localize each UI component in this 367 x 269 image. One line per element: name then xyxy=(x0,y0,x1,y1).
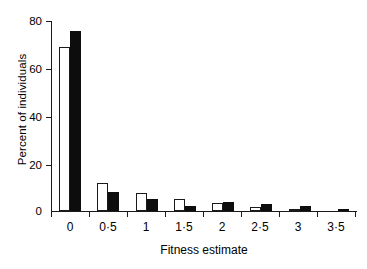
x-tick-label-0-5: 0·5 xyxy=(88,220,128,234)
bar-open-0·5 xyxy=(97,183,108,212)
x-tick-label-3: 3 xyxy=(278,220,318,234)
x-tick-boundary-6 xyxy=(279,212,280,217)
bar-open-1·5 xyxy=(174,199,185,211)
bar-chart-figure: Percent of individuals 80 60 40 20 0 0 0… xyxy=(0,0,367,269)
x-tick-boundary-1 xyxy=(89,212,90,217)
bar-filled-3 xyxy=(300,206,311,211)
bar-open-3 xyxy=(289,209,300,211)
y-tick-40 xyxy=(46,117,51,118)
bar-open-2·5 xyxy=(250,207,261,211)
x-tick-boundary-5 xyxy=(241,212,242,217)
y-axis-line xyxy=(51,21,52,212)
x-axis-line xyxy=(51,211,357,212)
x-tick-label-1: 1 xyxy=(126,220,166,234)
x-tick-label-3-5: 3·5 xyxy=(316,220,356,234)
x-tick-boundary-4 xyxy=(203,212,204,217)
x-tick-label-0: 0 xyxy=(50,220,90,234)
x-axis-title: Fitness estimate xyxy=(51,243,357,257)
bar-open-0 xyxy=(59,47,70,211)
bar-filled-0 xyxy=(70,31,81,212)
y-tick-label-40: 40 xyxy=(8,112,42,124)
bar-filled-1·5 xyxy=(185,206,196,211)
x-tick-label-2: 2 xyxy=(202,220,242,234)
y-tick-label-0: 0 xyxy=(8,206,42,218)
bar-filled-3·5 xyxy=(338,209,349,211)
y-tick-label-60: 60 xyxy=(8,64,42,76)
bar-open-2 xyxy=(212,203,223,211)
bar-filled-2·5 xyxy=(261,204,272,211)
bar-open-1 xyxy=(136,193,147,211)
y-tick-label-80: 80 xyxy=(8,16,42,28)
y-axis-title: Percent of individuals xyxy=(14,7,30,212)
bar-filled-0·5 xyxy=(108,192,119,211)
x-tick-label-1-5: 1·5 xyxy=(164,220,204,234)
x-tick-boundary-8 xyxy=(355,212,356,217)
x-tick-label-2-5: 2·5 xyxy=(240,220,280,234)
bar-filled-2 xyxy=(223,202,234,212)
y-tick-80 xyxy=(46,21,51,22)
y-tick-label-20: 20 xyxy=(8,160,42,172)
x-tick-boundary-3 xyxy=(165,212,166,217)
x-tick-boundary-0 xyxy=(51,212,52,217)
y-tick-20 xyxy=(46,165,51,166)
x-tick-boundary-7 xyxy=(317,212,318,217)
x-tick-boundary-2 xyxy=(127,212,128,217)
y-tick-60 xyxy=(46,69,51,70)
bar-filled-1 xyxy=(147,199,158,211)
